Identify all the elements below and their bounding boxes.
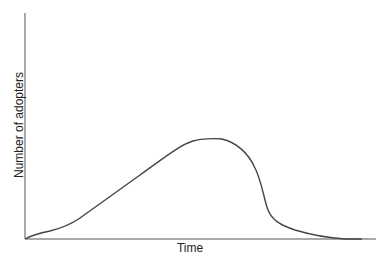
y-axis-label: Number of adopters [12, 65, 26, 185]
chart-plot [0, 0, 383, 263]
adoption-curve [25, 139, 362, 239]
x-axis-label: Time [160, 241, 220, 255]
